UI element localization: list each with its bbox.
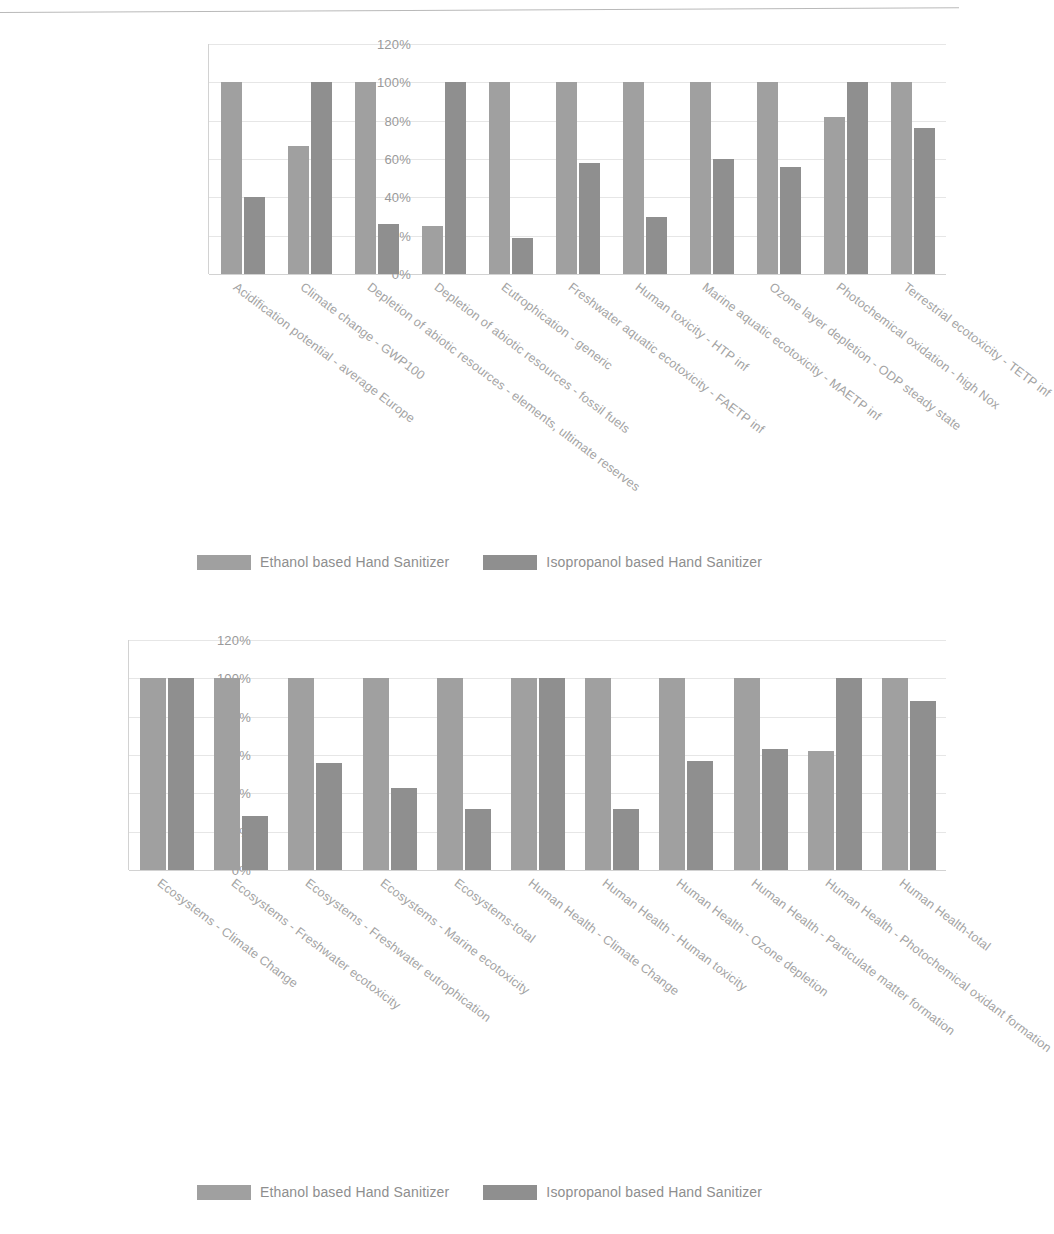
bar-series-1[interactable] bbox=[556, 82, 577, 274]
bar-group bbox=[501, 640, 575, 870]
legend-item[interactable]: Isopropanol based Hand Sanitizer bbox=[483, 554, 762, 570]
bar-series-1[interactable] bbox=[422, 226, 443, 274]
bar-series-1[interactable] bbox=[288, 146, 309, 274]
bar-group bbox=[427, 640, 501, 870]
legend-item[interactable]: Isopropanol based Hand Sanitizer bbox=[483, 1184, 762, 1200]
x-label-slot: Human Health - Photochemical oxidant for… bbox=[798, 870, 872, 871]
legend-item[interactable]: Ethanol based Hand Sanitizer bbox=[197, 554, 449, 570]
x-axis-label: Ecosystems - Climate Change bbox=[155, 876, 301, 991]
bar-series-1[interactable] bbox=[824, 117, 845, 274]
bar-series-2[interactable] bbox=[914, 128, 935, 274]
x-axis-label: Climate change - GWP100 bbox=[298, 280, 428, 383]
bar-series-2[interactable] bbox=[242, 816, 268, 870]
bar-group bbox=[344, 44, 411, 274]
x-label-slot: Depletion of abiotic resources - element… bbox=[344, 274, 411, 275]
x-label-slot: Ecosystems - Climate Change bbox=[130, 870, 204, 871]
bar-series-1[interactable] bbox=[221, 82, 242, 274]
legend-swatch-icon bbox=[483, 1185, 537, 1200]
bar-group bbox=[478, 44, 545, 274]
bar-series-2[interactable] bbox=[168, 678, 194, 870]
bar-series-2[interactable] bbox=[378, 224, 399, 274]
bar-series-1[interactable] bbox=[214, 678, 240, 870]
bar-series-2[interactable] bbox=[445, 82, 466, 274]
bar-series-1[interactable] bbox=[659, 678, 685, 870]
x-label-slot: Human Health - Human toxicity bbox=[575, 870, 649, 871]
x-label-slot: Ecosystems-total bbox=[427, 870, 501, 871]
x-axis-label: Human Health - Ozone depletion bbox=[674, 876, 831, 999]
bar-series-2[interactable] bbox=[687, 761, 713, 870]
x-label-slot: Human toxicity - HTP inf bbox=[611, 274, 678, 275]
bar-series-1[interactable] bbox=[288, 678, 314, 870]
legend-label: Ethanol based Hand Sanitizer bbox=[260, 1184, 449, 1200]
bar-series-1[interactable] bbox=[363, 678, 389, 870]
figure-chart-2: 0%20%40%60%80%100%120% Ecosystems - Clim… bbox=[0, 622, 959, 1222]
bar-series-2[interactable] bbox=[244, 197, 265, 274]
x-label-slot: Ecosystems - Freshwater ecotoxicity bbox=[204, 870, 278, 871]
x-axis-label: Human Health - Climate Change bbox=[526, 876, 682, 999]
x-label-slot: Freshwater aquatic ecotoxicity - FAETP i… bbox=[545, 274, 612, 275]
x-label-slot: Human Health-total bbox=[872, 870, 946, 871]
bar-group bbox=[411, 44, 478, 274]
x-axis-label: Human toxicity - HTP inf bbox=[632, 280, 751, 374]
bar-series-1[interactable] bbox=[623, 82, 644, 274]
bar-group bbox=[278, 640, 352, 870]
x-label-slot: Climate change - GWP100 bbox=[277, 274, 344, 275]
bar-group bbox=[353, 640, 427, 870]
chart-1-x-axis: Acidification potential - average Europe… bbox=[210, 274, 946, 275]
chart-1-plot-area: 0%20%40%60%80%100%120% Acidification pot… bbox=[208, 44, 946, 274]
bar-series-1[interactable] bbox=[437, 678, 463, 870]
bar-group bbox=[130, 640, 204, 870]
bar-series-2[interactable] bbox=[780, 167, 801, 274]
bar-series-2[interactable] bbox=[646, 217, 667, 275]
bar-series-1[interactable] bbox=[808, 751, 834, 870]
x-label-slot: Terrestrial ecotoxicity - TETP inf bbox=[879, 274, 946, 275]
bar-series-2[interactable] bbox=[713, 159, 734, 274]
bar-series-1[interactable] bbox=[757, 82, 778, 274]
bar-series-2[interactable] bbox=[762, 749, 788, 870]
bar-series-1[interactable] bbox=[734, 678, 760, 870]
bar-series-1[interactable] bbox=[511, 678, 537, 870]
bar-series-1[interactable] bbox=[489, 82, 510, 274]
x-label-slot: Human Health - Ozone depletion bbox=[649, 870, 723, 871]
bar-group bbox=[210, 44, 277, 274]
bar-group bbox=[545, 44, 612, 274]
bar-series-2[interactable] bbox=[539, 678, 565, 870]
x-axis-label: Ecosystems - Marine ecotoxicity bbox=[377, 876, 532, 997]
bar-series-2[interactable] bbox=[910, 701, 936, 870]
x-label-slot: Marine aquatic ecotoxicity - MAETP inf bbox=[678, 274, 745, 275]
page-header-rule bbox=[0, 7, 959, 13]
bar-group bbox=[812, 44, 879, 274]
bar-series-2[interactable] bbox=[512, 238, 533, 274]
legend-label: Isopropanol based Hand Sanitizer bbox=[546, 554, 762, 570]
legend-item[interactable]: Ethanol based Hand Sanitizer bbox=[197, 1184, 449, 1200]
chart-2-plot-area: 0%20%40%60%80%100%120% Ecosystems - Clim… bbox=[128, 640, 946, 870]
bar-series-2[interactable] bbox=[316, 763, 342, 870]
bar-series-2[interactable] bbox=[579, 163, 600, 274]
x-label-slot: Ozone layer depletion - ODP steady state bbox=[745, 274, 812, 275]
legend-swatch-icon bbox=[197, 555, 251, 570]
bar-series-1[interactable] bbox=[585, 678, 611, 870]
legend-swatch-icon bbox=[483, 555, 537, 570]
bar-series-2[interactable] bbox=[613, 809, 639, 870]
bar-series-2[interactable] bbox=[836, 678, 862, 870]
bar-series-2[interactable] bbox=[847, 82, 868, 274]
x-label-slot: Acidification potential - average Europe bbox=[210, 274, 277, 275]
bar-series-1[interactable] bbox=[882, 678, 908, 870]
bar-group bbox=[277, 44, 344, 274]
chart-2-bars bbox=[130, 640, 946, 870]
bar-series-1[interactable] bbox=[140, 678, 166, 870]
x-label-slot: Ecosystems - Freshwater eutrophication bbox=[278, 870, 352, 871]
bar-series-1[interactable] bbox=[891, 82, 912, 274]
bar-series-2[interactable] bbox=[391, 788, 417, 870]
chart-2-legend: Ethanol based Hand SanitizerIsopropanol … bbox=[0, 1184, 959, 1200]
bar-group bbox=[575, 640, 649, 870]
bar-series-1[interactable] bbox=[355, 82, 376, 274]
bar-group bbox=[649, 640, 723, 870]
bar-series-2[interactable] bbox=[465, 809, 491, 870]
bar-series-2[interactable] bbox=[311, 82, 332, 274]
bar-group bbox=[872, 640, 946, 870]
bar-series-1[interactable] bbox=[690, 82, 711, 274]
x-label-slot: Photochemical oxidation - high Nox bbox=[812, 274, 879, 275]
chart-1-legend: Ethanol based Hand SanitizerIsopropanol … bbox=[0, 554, 959, 570]
x-axis-label: Eutrophication - generic bbox=[499, 280, 616, 373]
